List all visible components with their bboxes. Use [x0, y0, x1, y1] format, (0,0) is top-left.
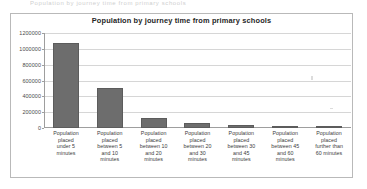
- x-axis-label-line: Population: [132, 130, 176, 137]
- chart-frame: Population by journey time from primary …: [10, 13, 353, 178]
- scan-artifact-text: Population by journey time from primary …: [30, 0, 340, 9]
- bar-slot: [176, 33, 220, 128]
- x-axis-label-line: further than: [307, 143, 351, 150]
- y-axis-tick-label: 200000: [22, 109, 41, 115]
- x-axis-label-line: placed: [219, 137, 263, 144]
- x-axis-label-line: placed: [263, 137, 307, 144]
- bar[interactable]: [184, 123, 210, 128]
- y-axis-tick-label: 400000: [22, 93, 41, 99]
- bars-layer: [44, 33, 351, 128]
- bar-slot: [263, 33, 307, 128]
- bar-slot: [88, 33, 132, 128]
- bar-slot: [132, 33, 176, 128]
- x-axis-label-line: placed: [176, 137, 220, 144]
- x-axis-category-label: Populationplacedbetween 5and 10minutes: [88, 130, 132, 163]
- y-axis-tick-label: 800000: [22, 62, 41, 68]
- plot-area: 120000010000008000006000004000002000000: [44, 33, 351, 128]
- y-axis-tick-label: 1200000: [19, 30, 41, 36]
- bar-slot: [219, 33, 263, 128]
- x-axis-category-label: Populationplacedbetween 45and 60minutes: [263, 130, 307, 163]
- x-axis-label-line: minutes: [44, 150, 88, 157]
- x-axis-label-line: between 5: [88, 143, 132, 150]
- bar[interactable]: [272, 126, 298, 128]
- x-axis-category-label: Populationplacedfurther than60 minutes: [307, 130, 351, 156]
- chart-title: Population by journey time from primary …: [11, 16, 352, 25]
- x-axis-label-line: Population: [88, 130, 132, 137]
- x-axis-label-line: and 20: [132, 150, 176, 157]
- x-axis-label-line: Population: [44, 130, 88, 137]
- y-axis-tick-label: 600000: [22, 78, 41, 84]
- x-axis-category-label: Populationplacedunder 5minutes: [44, 130, 88, 156]
- x-axis-category-label: Populationplacedbetween 10and 20minutes: [132, 130, 176, 163]
- x-axis-label-line: Population: [219, 130, 263, 137]
- bar-slot: [307, 33, 351, 128]
- y-axis-tick-label: 0: [38, 125, 41, 131]
- x-axis-label-line: minutes: [263, 156, 307, 163]
- x-axis-category-labels: Populationplacedunder 5minutesPopulation…: [44, 130, 351, 176]
- x-axis-label-line: placed: [44, 137, 88, 144]
- speckle-mark: [311, 76, 313, 80]
- bar[interactable]: [53, 43, 79, 128]
- x-axis-label-line: and 30: [176, 150, 220, 157]
- y-axis-tick-label: 1000000: [19, 46, 41, 52]
- x-axis-label-line: under 5: [44, 143, 88, 150]
- bar[interactable]: [141, 118, 167, 128]
- x-axis-label-line: minutes: [219, 156, 263, 163]
- bar-slot: [44, 33, 88, 128]
- x-axis-label-line: Population: [176, 130, 220, 137]
- bar[interactable]: [97, 88, 123, 128]
- x-axis-label-line: and 45: [219, 150, 263, 157]
- x-axis-label-line: minutes: [88, 156, 132, 163]
- y-axis-tick-mark: [42, 128, 44, 129]
- x-axis-label-line: Population: [307, 130, 351, 137]
- x-axis-label-line: between 20: [176, 143, 220, 150]
- x-axis-label-line: placed: [307, 137, 351, 144]
- speckle-mark: [330, 108, 333, 109]
- x-axis-label-line: between 10: [132, 143, 176, 150]
- bar[interactable]: [316, 126, 342, 128]
- x-axis-label-line: between 45: [263, 143, 307, 150]
- x-axis-label-line: Population: [263, 130, 307, 137]
- x-axis-label-line: 60 minutes: [307, 150, 351, 157]
- x-axis-label-line: minutes: [132, 156, 176, 163]
- x-axis-label-line: and 60: [263, 150, 307, 157]
- x-axis-label-line: minutes: [176, 156, 220, 163]
- x-axis-category-label: Populationplacedbetween 20and 30minutes: [176, 130, 220, 163]
- x-axis-label-line: and 10: [88, 150, 132, 157]
- x-axis-label-line: placed: [132, 137, 176, 144]
- x-axis-category-label: Populationplacedbetween 30and 45minutes: [219, 130, 263, 163]
- x-axis-label-line: between 30: [219, 143, 263, 150]
- bar[interactable]: [228, 125, 254, 128]
- x-axis-label-line: placed: [88, 137, 132, 144]
